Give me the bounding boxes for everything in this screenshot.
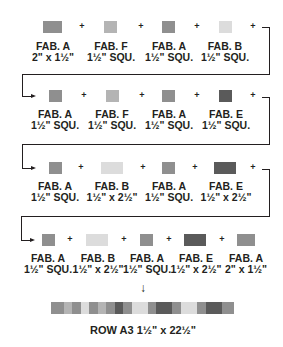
plus-icon: + [138,91,146,100]
swatch-fab-f [106,90,119,102]
plus-icon: + [218,235,226,244]
swatch-fab-a [162,21,175,33]
plus-icon: + [191,163,199,172]
swatch-fab-e [184,234,206,246]
swatch-fab-a [42,234,55,246]
swatch-fab-b [219,21,232,33]
piece-label: FAB. A1½" SQU. [24,253,72,274]
swatch-fab-f [104,21,117,33]
piece-label: FAB. A1½" SQU. [123,253,171,274]
swatch-fab-b [101,162,123,174]
plus-icon: + [249,163,257,172]
plus-icon: + [249,91,257,100]
swatch-fab-b [86,234,108,246]
plus-icon: + [165,235,173,244]
plus-icon: + [137,22,145,31]
piece-label: FAB. E1½" x 2½" [201,181,252,202]
assembled-row-strip [51,302,234,314]
plus-icon: + [66,235,74,244]
plus-icon: + [120,235,128,244]
plus-icon: + [139,163,147,172]
arrow-down-icon: ↓ [140,282,146,294]
swatch-fab-e [214,162,236,174]
piece-label: FAB. A1½" SQU. [145,109,193,130]
arrow-right-icon [31,94,36,98]
plus-icon: + [78,22,86,31]
swatch-fab-a [162,162,175,174]
piece-label: FAB. A1½" SQU. [31,109,79,130]
swatch-fab-a [237,234,255,246]
swatch-fab-a [49,162,62,174]
piece-label: FAB. A2" x 1½" [32,41,74,62]
piece-label: FAB. F1½" SQU. [88,109,136,130]
swatch-fab-a [49,90,62,102]
arrow-right-icon [30,238,35,242]
plus-icon: + [80,91,88,100]
piece-label: FAB. A1½" SQU. [145,41,193,62]
arrow-right-icon [31,166,36,170]
piece-label: FAB. B1½" SQU. [201,41,249,62]
piece-label: FAB. F1½" SQU. [87,41,135,62]
plus-icon: + [77,163,85,172]
piece-label: FAB. A1½" SQU. [145,181,193,202]
swatch-fab-a [140,234,153,246]
plus-icon: + [249,22,257,31]
piece-label: FAB. E1½" SQU. [202,109,250,130]
plus-icon: + [193,91,201,100]
piece-label: FAB. A1½" SQU. [31,181,79,202]
swatch-fab-e [219,90,232,102]
plus-icon: + [193,22,201,31]
piece-label: FAB. A2" x 1½" [225,253,267,274]
piece-label: FAB. E1½" x 2½" [171,253,222,274]
swatch-fab-a [162,90,175,102]
result-label: ROW A3 1½" x 22½" [90,324,196,336]
swatch-fab-a [43,21,62,33]
piece-label: FAB. B1½" x 2½" [73,253,124,274]
piece-label: FAB. B1½" x 2½" [87,181,138,202]
